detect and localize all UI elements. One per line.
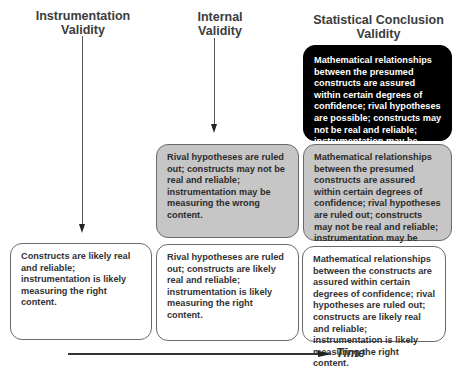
box-text: Rival hypotheses are ruled out; construc…: [167, 252, 284, 320]
instrumentation-arrow-head-icon: [79, 224, 85, 233]
heading-internal-validity: Internal Validity: [170, 10, 270, 38]
heading-line: Validity: [300, 27, 457, 41]
heading-line: Validity: [8, 23, 158, 37]
time-axis-label: Time: [336, 346, 365, 360]
heading-line: Statistical Conclusion: [300, 13, 457, 27]
statistical-conclusion-gray-box: Mathematical relationships between the p…: [303, 144, 452, 241]
heading-line: Internal: [170, 10, 270, 24]
instrumentation-arrow-line: [82, 36, 83, 226]
internal-arrow-line: [214, 38, 215, 126]
internal-validity-white-box: Rival hypotheses are ruled out; construc…: [156, 244, 299, 341]
heading-statistical-conclusion-validity: Statistical Conclusion Validity: [300, 13, 457, 41]
statistical-conclusion-white-box: Mathematical relationships between the c…: [302, 246, 446, 342]
instrumentation-validity-white-box: Constructs are likely real and reliable;…: [10, 243, 152, 340]
internal-arrow-head-icon: [211, 124, 217, 133]
heading-instrumentation-validity: Instrumentation Validity: [8, 9, 158, 37]
heading-line: Instrumentation: [8, 9, 158, 23]
box-text: Constructs are likely real and reliable;…: [21, 251, 130, 307]
box-text: Mathematical relationships between the p…: [314, 55, 443, 158]
heading-line: Validity: [170, 24, 270, 38]
internal-validity-gray-box: Rival hypotheses are ruled out; construc…: [156, 144, 299, 238]
box-text: Rival hypotheses are ruled out; construc…: [167, 152, 285, 220]
time-axis-line: [68, 353, 324, 355]
time-arrow-head-icon: [318, 351, 332, 357]
statistical-conclusion-black-box: Mathematical relationships between the p…: [303, 45, 452, 141]
